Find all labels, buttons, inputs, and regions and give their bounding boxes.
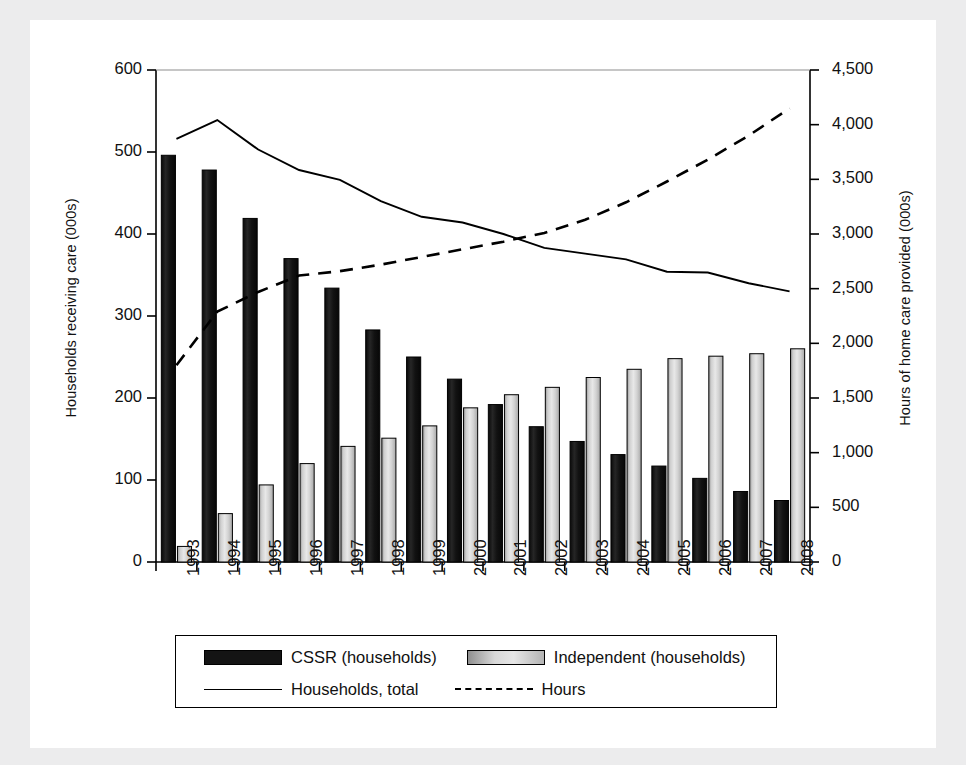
- bar-cssr: [611, 455, 625, 562]
- bar-independent: [750, 354, 764, 562]
- y-axis-left-tick-label: 200: [90, 387, 142, 406]
- y-axis-left-tick-label: 0: [90, 551, 142, 570]
- chart-page: Households receiving care (000s) Hours o…: [30, 20, 936, 748]
- y-axis-right-tick-label: 4,000: [832, 114, 892, 133]
- y-axis-right-tick-label: 1,500: [832, 387, 892, 406]
- x-axis-tick-label: 1998: [389, 539, 408, 576]
- bar-cssr: [243, 218, 257, 562]
- legend-label-cssr: CSSR (households): [291, 648, 437, 667]
- bar-independent: [668, 359, 682, 562]
- legend-item-independent: Independent (households): [467, 648, 746, 667]
- line-hours: [176, 108, 789, 365]
- legend-label-households-total: Households, total: [291, 680, 419, 699]
- bar-cssr: [325, 288, 339, 562]
- y-axis-right-tick-label: 500: [832, 496, 892, 515]
- bar-cssr: [407, 357, 421, 562]
- dark-bar-swatch-icon: [204, 650, 282, 665]
- x-axis-tick-label: 2001: [511, 539, 530, 576]
- bar-independent: [545, 387, 559, 562]
- solid-line-swatch-icon: [204, 689, 282, 690]
- bar-cssr: [488, 405, 502, 562]
- bar-cssr: [652, 466, 666, 562]
- y-axis-right-title: Hours of home care provided (000s): [897, 168, 913, 448]
- y-axis-right-tick-label: 1,000: [832, 442, 892, 461]
- x-axis-tick-label: 1999: [430, 539, 449, 576]
- y-axis-left-tick-label: 500: [90, 141, 142, 160]
- legend-row-bars: CSSR (households) Independent (household…: [176, 642, 776, 672]
- y-axis-left-tick-label: 300: [90, 305, 142, 324]
- bar-independent: [627, 369, 641, 562]
- y-axis-right-tick-label: 0: [832, 551, 892, 570]
- x-axis-tick-label: 2003: [593, 539, 612, 576]
- x-axis-tick-label: 2004: [634, 539, 653, 576]
- bar-cssr: [447, 379, 461, 562]
- y-axis-right-tick-label: 2,500: [832, 278, 892, 297]
- bar-cssr: [529, 427, 543, 562]
- page-background: Households receiving care (000s) Hours o…: [0, 0, 966, 765]
- y-axis-right-tick-label: 2,000: [832, 332, 892, 351]
- legend-item-hours: Hours: [455, 680, 586, 699]
- legend-item-cssr: CSSR (households): [204, 648, 437, 667]
- bar-cssr: [366, 330, 380, 562]
- y-axis-left-tick-label: 100: [90, 469, 142, 488]
- bar-independent: [504, 395, 518, 562]
- x-axis-tick-label: 2006: [716, 539, 735, 576]
- y-axis-left-title: Households receiving care (000s): [63, 168, 79, 448]
- chart-figure: Households receiving care (000s) Hours o…: [30, 20, 936, 748]
- x-axis-tick-label: 1997: [348, 539, 367, 576]
- x-axis-tick-label: 2005: [675, 539, 694, 576]
- y-axis-right-tick-label: 3,000: [832, 223, 892, 242]
- x-axis-tick-label: 1994: [225, 539, 244, 576]
- legend-item-households-total: Households, total: [204, 680, 419, 699]
- x-axis-tick-label: 1995: [266, 539, 285, 576]
- bar-cssr: [734, 491, 748, 562]
- y-axis-right-tick-label: 3,500: [832, 168, 892, 187]
- chart-legend: CSSR (households) Independent (household…: [175, 635, 777, 708]
- y-axis-left-tick-label: 400: [90, 223, 142, 242]
- bar-cssr: [202, 170, 216, 562]
- bar-cssr: [570, 441, 584, 562]
- bar-independent: [791, 349, 805, 562]
- y-axis-left-tick-label: 600: [90, 59, 142, 78]
- legend-label-independent: Independent (households): [554, 648, 746, 667]
- x-axis-tick-label: 2008: [798, 539, 817, 576]
- x-axis-tick-label: 1993: [184, 539, 203, 576]
- line-households-total: [176, 120, 789, 291]
- x-axis-tick-label: 2007: [757, 539, 776, 576]
- legend-label-hours: Hours: [542, 680, 586, 699]
- bar-independent: [709, 356, 723, 562]
- bar-independent: [586, 378, 600, 563]
- y-axis-right-tick-label: 4,500: [832, 59, 892, 78]
- bar-cssr: [284, 259, 298, 562]
- bar-cssr: [161, 155, 175, 562]
- bar-cssr: [693, 478, 707, 562]
- x-axis-tick-label: 2000: [471, 539, 490, 576]
- legend-row-lines: Households, total Hours: [176, 674, 776, 704]
- light-bar-swatch-icon: [467, 650, 545, 665]
- bar-cssr: [774, 501, 788, 563]
- dashed-line-swatch-icon: [455, 688, 533, 690]
- x-axis-tick-label: 2002: [552, 539, 571, 576]
- x-axis-tick-label: 1996: [307, 539, 326, 576]
